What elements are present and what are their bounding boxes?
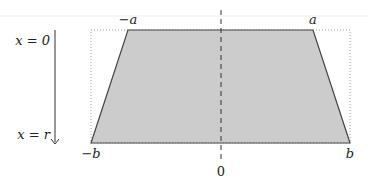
label-neg-a: −a (119, 12, 138, 27)
label-x-equals-r: x = r (17, 127, 50, 142)
trapezoid-diagram: −a a −b b 0 x = 0 x = r (0, 0, 368, 185)
label-neg-b: −b (81, 146, 100, 161)
label-a: a (309, 12, 317, 27)
label-x-equals-0: x = 0 (15, 33, 50, 48)
label-b: b (346, 146, 354, 161)
label-zero: 0 (217, 164, 225, 179)
